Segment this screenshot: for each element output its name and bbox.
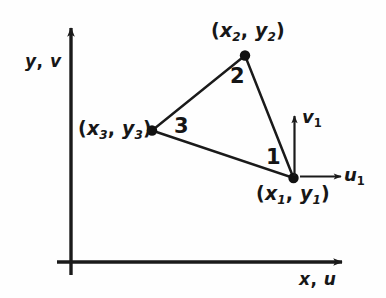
y-axis-symbol: y	[25, 51, 37, 71]
u1-symbol: u	[344, 164, 357, 185]
node-2-open-paren: (	[211, 19, 220, 41]
edge-2-label: 2	[230, 66, 245, 87]
v-axis-symbol: v	[50, 51, 62, 71]
node-3-comma: ,	[108, 117, 115, 139]
edge-3-label: 3	[174, 116, 189, 137]
node-3-y-symbol: y	[122, 117, 135, 139]
node-1-x-symbol: x	[265, 182, 277, 204]
node-1-close-paren: )	[321, 182, 330, 204]
node-3-coordinate-label: (x3, y3)	[78, 119, 152, 141]
node-1-x-subscript: 1	[277, 193, 285, 207]
node-2-coordinate-label: (x2, y2)	[211, 21, 285, 43]
x-u-axis-label: x, u	[299, 271, 336, 288]
node-1-open-paren: (	[256, 182, 265, 204]
x-axis-symbol: x	[299, 269, 310, 289]
v1-symbol: v	[302, 106, 314, 127]
node-2-y-subscript: 2	[268, 30, 276, 44]
node-1-y-symbol: y	[300, 182, 313, 204]
edge-1-label: 1	[266, 147, 281, 168]
node-3-x-symbol: x	[87, 117, 99, 139]
triangular-element-figure: y, v x, u (x2, y2) (x3, y3) (x1, y1) 1 2…	[0, 0, 386, 298]
node-3-open-paren: (	[78, 117, 87, 139]
v1-vector-label: v1	[302, 108, 322, 129]
node-2-close-paren: )	[276, 19, 285, 41]
node-2-x-subscript: 2	[232, 30, 240, 44]
figure-drawing-canvas	[0, 0, 386, 298]
node-3-y-subscript: 3	[135, 128, 143, 142]
node-2-y-symbol: y	[255, 19, 268, 41]
node-1-comma: ,	[286, 182, 293, 204]
u1-subscript: 1	[357, 174, 365, 188]
node-3-x-subscript: 3	[99, 128, 107, 142]
node-2-x-symbol: x	[220, 19, 232, 41]
node-1-coordinate-label: (x1, y1)	[256, 184, 330, 206]
y-axis-comma: ,	[37, 51, 44, 71]
v1-subscript: 1	[314, 116, 322, 130]
node-1-y-subscript: 1	[313, 193, 321, 207]
x-axis-comma: ,	[310, 269, 317, 289]
u-axis-symbol: u	[324, 269, 337, 289]
y-v-axis-label: y, v	[25, 53, 62, 70]
node-3-close-paren: )	[143, 117, 152, 139]
node-2-dot	[240, 50, 250, 60]
node-2-comma: ,	[241, 19, 248, 41]
u1-vector-label: u1	[344, 166, 365, 187]
